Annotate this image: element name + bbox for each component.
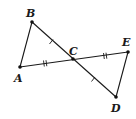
tick-mark-bc — [50, 40, 54, 45]
label-c: C — [69, 45, 78, 58]
double-tick-mark-ac-2 — [46, 60, 47, 66]
label-b: B — [25, 7, 35, 20]
label-d: D — [110, 102, 121, 115]
segment-ed — [116, 52, 128, 97]
label-a: A — [13, 72, 23, 85]
point-d — [114, 95, 118, 99]
label-e: E — [121, 36, 131, 49]
point-b — [30, 20, 34, 24]
segment-ab — [20, 22, 32, 67]
double-tick-mark-ce-1 — [104, 53, 105, 59]
tick-mark-cd — [92, 77, 96, 82]
double-tick-mark-ce-2 — [106, 53, 107, 59]
geometry-diagram: A B C D E — [0, 0, 136, 119]
point-a — [18, 65, 22, 69]
point-e — [126, 50, 130, 54]
double-tick-mark-ac-1 — [44, 61, 45, 67]
